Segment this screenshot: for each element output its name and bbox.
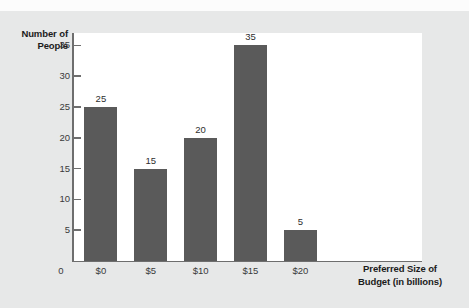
bar-value-label: 25 [84,94,117,104]
bar-usd-0 [84,107,117,261]
y-axis-tick-label: 5 [48,225,70,235]
x-axis-tick-label: $15 [227,265,273,276]
bar-value-label: 20 [184,125,217,135]
y-axis-tick-label-wrap-10: 10 [45,194,70,204]
y-axis-tick-label-wrap-35: 35 [45,40,70,50]
y-axis-tick-label: 10 [48,194,70,204]
x-axis-title: Preferred Size of Budget (in billions) [333,263,467,288]
x-axis-tick-label: $20 [277,265,323,276]
page-top-band [0,0,469,11]
x-axis-tick-label: $0 [78,265,124,276]
y-axis-tick-label: 25 [48,102,70,112]
bar-value-label: 35 [234,32,267,42]
y-axis-tick-label: 35 [48,40,70,50]
chart-page: Number of People 5101520253035 251520355… [0,0,469,308]
x-axis-title-line-1: Preferred Size of [363,263,437,274]
x-axis-title-line-2: Budget (in billions) [358,276,442,287]
bar-usd-20 [284,230,317,261]
x-axis-origin-label: 0 [52,265,70,276]
y-axis-tick-label-wrap-25: 25 [45,102,70,112]
y-axis-tick-label: 20 [48,133,70,143]
bars-layer: 251520355 [73,33,422,261]
bar-value-label: 5 [284,217,317,227]
bar-usd-5 [134,169,167,261]
y-axis-tick-label-wrap-15: 15 [45,164,70,174]
y-axis-title-line-1: Number of [21,28,68,39]
x-axis-tick-label: $10 [178,265,224,276]
y-axis-tick-label-wrap-5: 5 [45,225,70,235]
y-axis-tick-label: 30 [48,71,70,81]
y-axis-tick-label-wrap-30: 30 [45,71,70,81]
bar-usd-15 [234,45,267,261]
x-axis-tick-label: $5 [128,265,174,276]
y-axis-tick-label: 15 [48,164,70,174]
bar-value-label: 15 [134,156,167,166]
bar-usd-10 [184,138,217,261]
y-axis-tick-label-wrap-20: 20 [45,133,70,143]
